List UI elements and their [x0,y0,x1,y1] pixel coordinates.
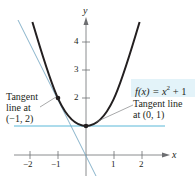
x-tick-neg1: −1 [51,159,61,169]
y-tick-3: 3 [74,64,79,74]
leader-right [96,105,133,122]
y-tick-4: 4 [74,36,79,46]
x-tick-neg2: −2 [23,159,33,169]
y-axis-label: y [83,5,87,16]
point-0-1 [84,124,89,129]
leader-left [40,97,56,107]
left-annotation-line-1: Tangent [6,91,38,102]
y-axis-arrow [84,17,89,25]
x-axis-label: x [172,149,176,160]
right-tangent-annotation: Tangent line at (0, 1) [133,98,183,120]
left-annotation-line-2: line at [6,102,38,113]
x-tick-1: 1 [111,159,116,169]
function-label: f(x) = x2 + 1 [131,79,195,97]
point-neg1-2 [56,96,61,101]
left-tangent-annotation: Tangent line at (−1, 2) [6,91,38,124]
left-annotation-line-3: (−1, 2) [6,113,38,124]
function-label-suffix: + 1 [170,86,186,97]
x-tick-2: 2 [139,159,144,169]
right-annotation-line-1: Tangent line [133,98,183,109]
y-tick-2: 2 [74,92,79,102]
function-label-base: f(x) = x [135,86,167,97]
x-axis-arrow [162,153,170,158]
right-annotation-line-2: at (0, 1) [133,109,183,120]
